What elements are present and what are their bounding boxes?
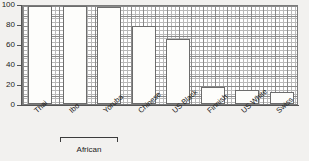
bar: [97, 7, 121, 104]
y-tick-label: 40: [6, 61, 15, 69]
y-tick-mark: [17, 85, 21, 86]
bars-layer: [23, 6, 297, 104]
y-tick-mark: [17, 105, 21, 106]
y-tick-label: 0: [11, 101, 15, 109]
african-group-label: African: [60, 145, 118, 154]
bar: [63, 6, 87, 104]
y-tick-mark: [17, 5, 21, 6]
plot-area: [22, 5, 298, 105]
y-axis-line: [21, 5, 22, 106]
y-tick-label: 80: [6, 21, 15, 29]
y-tick-label: 100: [2, 1, 15, 9]
y-tick-label: 60: [6, 41, 15, 49]
bar-chart-figure: 020406080100 ThaiIboYorubaChineseUS Blac…: [0, 0, 309, 161]
y-tick-mark: [17, 45, 21, 46]
african-group-bracket: [60, 137, 118, 142]
bar: [28, 6, 52, 104]
y-tick-mark: [17, 25, 21, 26]
x-axis-line: [21, 105, 299, 106]
y-tick-mark: [17, 65, 21, 66]
y-tick-label: 20: [6, 81, 15, 89]
